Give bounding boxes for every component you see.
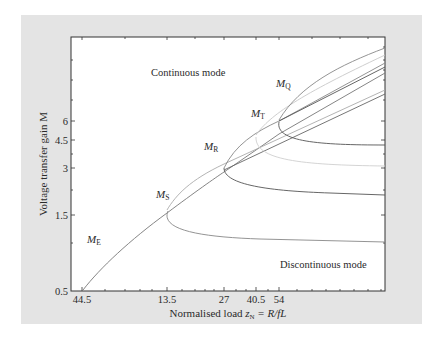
x-tick-54: 54 [274,294,285,305]
y-tick-3: 3 [63,163,68,174]
y-axis-label: Voltage transfer gain M [37,112,49,216]
y-tick-6: 6 [63,116,68,127]
y-tick-1-5: 1.5 [55,210,68,221]
continuous-mode-label: Continuous mode [151,67,225,78]
y-tick-0-5: 0.5 [55,286,68,297]
x-tick-44-5: 44.5 [73,294,91,305]
y-tick-4-5: 4.5 [55,135,68,146]
annotation-ms: MS [156,188,169,202]
x-axis-label: Normalised load zN = R/fL [170,307,287,321]
annotation-mt: MT [251,107,265,121]
annotation-mq: MQ [276,77,291,91]
annotation-mr: MR [204,140,218,154]
x-tick-13-5: 13.5 [158,294,176,305]
x-tick-27: 27 [219,294,230,305]
x-tick-40-5: 40.5 [247,294,265,305]
discontinuous-mode-label: Discontinuous mode [280,259,367,270]
annotation-me: ME [87,233,101,247]
